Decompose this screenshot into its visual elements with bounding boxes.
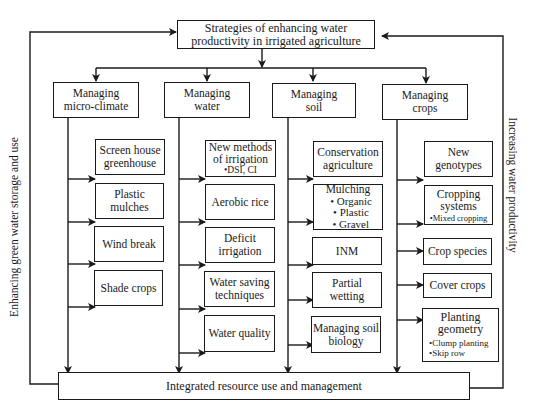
category-soil: Managing soil — [272, 83, 356, 118]
item-screen-house: Screen house greenhouse — [95, 139, 165, 175]
item-mulching: Mulching • Organic • Plastic • Gravel — [313, 184, 383, 230]
item-label: Conservation — [317, 146, 378, 159]
top-box-line1: Strategies of enhancing water — [205, 22, 347, 35]
side-label-right: Increasing water productivity — [507, 117, 519, 252]
category-water: Managing water — [164, 82, 250, 118]
item-label: wetting — [330, 290, 365, 303]
category-label: soil — [306, 101, 323, 114]
bullet-skip-row: •Skip row — [423, 348, 465, 358]
item-inm: INM — [312, 237, 382, 265]
item-water-saving-techniques: Water saving techniques — [204, 271, 275, 307]
bottom-box-label: Integrated resource use and management — [166, 380, 362, 393]
item-plastic-mulches: Plastic mulches — [95, 183, 164, 219]
item-managing-soil-biology: Managing soil biology — [311, 316, 381, 353]
category-label: Managing — [291, 88, 338, 101]
item-label: Plastic — [114, 188, 145, 201]
item-sublabel: •Mixed cropping — [430, 213, 488, 223]
side-label-left: Enhancing green water storage and use — [8, 137, 20, 317]
category-label: micro-climate — [64, 100, 129, 113]
bottom-integrated-box: Integrated resource use and management — [58, 372, 470, 400]
item-label: Partial — [332, 277, 362, 290]
top-strategy-box: Strategies of enhancing water productivi… — [177, 20, 375, 49]
category-crops: Managing crops — [382, 84, 468, 120]
category-label: water — [194, 100, 220, 113]
item-label: systems — [440, 200, 476, 213]
item-label: Cropping — [437, 188, 480, 201]
bullet-clump-planting: •Clump planting — [423, 338, 488, 348]
item-label: biology — [328, 335, 363, 348]
item-label: Aerobic rice — [211, 196, 268, 209]
item-label: of irrigation — [213, 153, 268, 165]
item-label: genotypes — [435, 159, 482, 172]
item-label: Wind break — [102, 238, 156, 251]
item-label: New methods — [209, 141, 273, 153]
category-label: crops — [413, 102, 438, 115]
item-label: Water saving — [209, 276, 269, 289]
item-sublabel: •DSI, CI — [224, 165, 257, 176]
item-label: Deficit — [224, 232, 256, 245]
item-wind-break: Wind break — [94, 226, 164, 262]
item-label: geometry — [438, 324, 483, 336]
item-label: Screen house — [100, 144, 161, 157]
item-new-genotypes: New genotypes — [424, 141, 493, 177]
item-label: techniques — [215, 289, 264, 302]
item-label: irrigation — [219, 245, 262, 258]
top-box-line2: productivity in irrigated agriculture — [191, 35, 361, 48]
category-label: Managing — [402, 89, 449, 102]
bullet-plastic: • Plastic — [333, 207, 382, 219]
item-shade-crops: Shade crops — [94, 270, 163, 306]
bullet-gravel: • Gravel — [332, 219, 382, 231]
category-micro-climate: Managing micro-climate — [53, 82, 139, 118]
item-cover-crops: Cover crops — [423, 273, 492, 298]
category-label: Managing — [184, 87, 231, 100]
item-label: Crop species — [428, 245, 487, 258]
item-deficit-irrigation: Deficit irrigation — [205, 227, 275, 263]
item-aerobic-rice: Aerobic rice — [205, 184, 275, 220]
item-water-quality: Water quality — [204, 315, 275, 352]
item-label: New — [448, 146, 470, 159]
item-cropping-systems: Cropping systems •Mixed cropping — [424, 185, 493, 225]
item-new-irrigation-methods: New methods of irrigation •DSI, CI — [205, 140, 276, 177]
item-label: Cover crops — [430, 279, 486, 292]
item-label: agriculture — [323, 159, 373, 172]
item-label: greenhouse — [104, 157, 156, 170]
item-label: mulches — [110, 201, 148, 214]
item-label: Shade crops — [101, 282, 157, 295]
item-conservation-agriculture: Conservation agriculture — [313, 141, 383, 177]
item-label: INM — [336, 245, 358, 258]
item-partial-wetting: Partial wetting — [312, 272, 382, 308]
item-label: Water quality — [209, 327, 271, 340]
item-label: Managing soil — [313, 322, 379, 335]
item-planting-geometry: Planting geometry •Clump planting •Skip … — [422, 308, 499, 362]
item-crop-species: Crop species — [423, 238, 492, 265]
item-label: Mulching — [326, 184, 371, 196]
category-label: Managing — [73, 87, 120, 100]
